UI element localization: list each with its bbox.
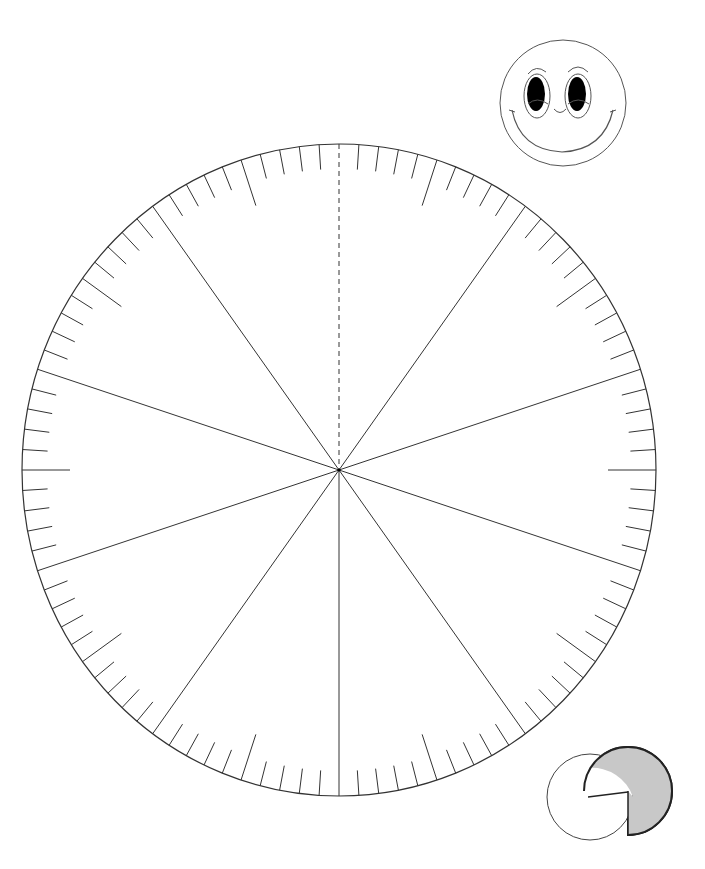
long-tick <box>83 633 122 661</box>
short-tick <box>169 195 182 216</box>
short-tick <box>629 429 654 432</box>
short-tick <box>137 219 153 238</box>
short-tick <box>595 615 617 627</box>
short-tick <box>260 762 266 786</box>
short-tick <box>394 150 399 175</box>
short-tick <box>394 766 399 791</box>
short-tick <box>28 409 53 414</box>
long-tick <box>241 160 256 206</box>
short-tick <box>630 489 655 491</box>
short-tick <box>595 313 617 325</box>
short-tick <box>204 175 215 198</box>
short-tick <box>169 724 182 745</box>
short-tick <box>95 662 114 678</box>
short-tick <box>463 742 474 765</box>
short-tick <box>319 145 321 170</box>
short-tick <box>552 247 570 264</box>
short-tick <box>23 489 48 491</box>
radial-line <box>339 369 640 470</box>
short-tick <box>412 762 418 786</box>
radial-line <box>153 206 339 470</box>
short-tick <box>186 184 198 206</box>
short-tick <box>122 232 139 250</box>
short-tick <box>299 769 302 794</box>
short-tick <box>376 769 379 794</box>
short-tick <box>137 702 153 721</box>
short-tick <box>319 770 321 795</box>
short-tick <box>222 750 231 773</box>
radial-line <box>153 470 339 734</box>
short-tick <box>626 409 651 414</box>
short-tick <box>52 331 75 342</box>
short-tick <box>32 389 56 395</box>
short-tick <box>186 734 198 756</box>
short-tick <box>586 631 607 644</box>
protractor-dial <box>22 144 656 796</box>
long-tick <box>557 633 596 661</box>
short-tick <box>204 742 215 765</box>
long-tick <box>241 734 256 780</box>
short-tick <box>25 429 50 432</box>
short-tick <box>603 598 626 609</box>
short-tick <box>525 702 541 721</box>
long-tick <box>83 278 122 306</box>
short-tick <box>446 750 455 773</box>
short-tick <box>463 175 474 198</box>
short-tick <box>108 676 126 693</box>
short-tick <box>28 526 53 531</box>
pie-chart-icon[interactable] <box>547 747 672 840</box>
short-tick <box>629 508 654 511</box>
short-tick <box>610 581 633 590</box>
protractor-canvas <box>0 0 705 869</box>
left-eye-icon <box>527 77 545 111</box>
short-tick <box>495 724 508 745</box>
short-tick <box>552 676 570 693</box>
smiley-face-icon[interactable] <box>500 40 626 166</box>
short-tick <box>108 247 126 264</box>
short-tick <box>495 195 508 216</box>
radial-line <box>339 470 640 571</box>
short-tick <box>222 167 231 190</box>
short-tick <box>280 766 285 791</box>
short-tick <box>95 262 114 278</box>
short-tick <box>622 389 646 395</box>
short-tick <box>61 615 83 627</box>
long-tick <box>422 734 437 780</box>
right-eye-icon <box>568 77 586 111</box>
short-tick <box>44 581 67 590</box>
short-tick <box>71 295 92 308</box>
long-tick <box>422 160 437 206</box>
short-tick <box>52 598 75 609</box>
radial-line <box>339 470 525 734</box>
short-tick <box>32 545 56 551</box>
short-tick <box>586 295 607 308</box>
short-tick <box>626 526 651 531</box>
short-tick <box>610 350 633 359</box>
short-tick <box>357 770 359 795</box>
radial-line <box>38 369 339 470</box>
short-tick <box>376 147 379 172</box>
short-tick <box>539 232 556 250</box>
short-tick <box>603 331 626 342</box>
short-tick <box>630 450 655 452</box>
short-tick <box>260 154 266 178</box>
short-tick <box>622 545 646 551</box>
short-tick <box>25 508 50 511</box>
radial-line <box>38 470 339 571</box>
short-tick <box>122 689 139 707</box>
short-tick <box>525 219 541 238</box>
short-tick <box>23 450 48 452</box>
short-tick <box>480 184 492 206</box>
short-tick <box>61 313 83 325</box>
short-tick <box>564 662 583 678</box>
short-tick <box>446 167 455 190</box>
long-tick <box>557 278 596 306</box>
short-tick <box>44 350 67 359</box>
short-tick <box>480 734 492 756</box>
short-tick <box>71 631 92 644</box>
short-tick <box>564 262 583 278</box>
radial-line <box>339 206 525 470</box>
short-tick <box>357 145 359 170</box>
short-tick <box>280 150 285 175</box>
short-tick <box>412 154 418 178</box>
